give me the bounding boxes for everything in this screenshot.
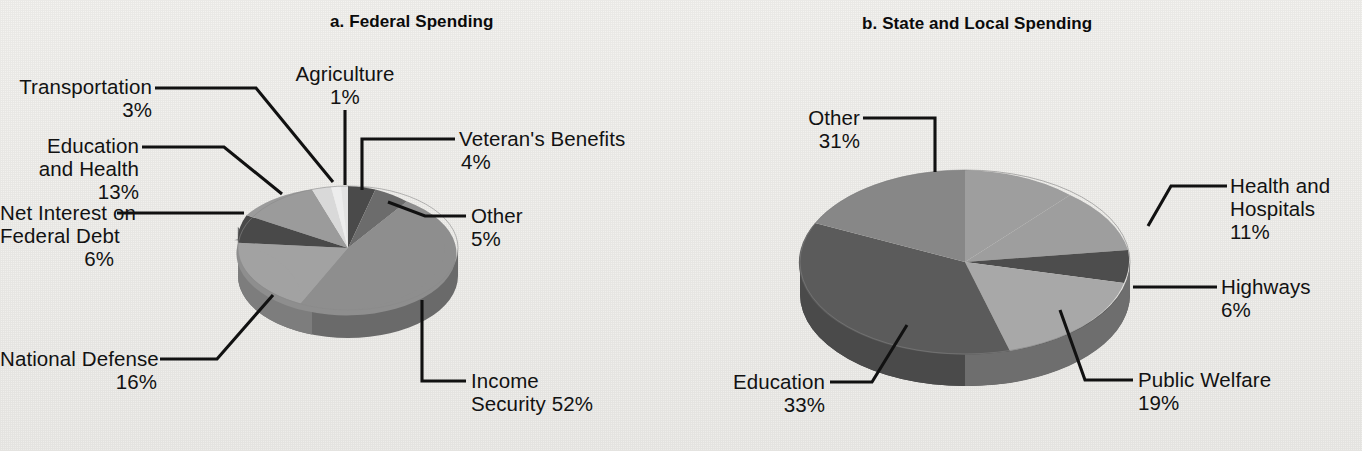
- label-agriculture: Agriculture 1%: [275, 62, 415, 108]
- label-other-state-local-line1: Other: [720, 106, 860, 129]
- label-net-interest-on-federal-debt: Net Interest on Federal Debt 6%: [0, 201, 114, 270]
- label-net-interest-value: 6%: [0, 247, 114, 270]
- label-net-interest-line1: Net Interest on: [0, 201, 114, 224]
- label-highways-line1: Highways: [1221, 275, 1351, 298]
- label-other-federal: Other 5%: [471, 204, 591, 250]
- label-veterans-benefits-line1: Veteran's Benefits: [459, 127, 679, 150]
- label-net-interest-line2: Federal Debt: [0, 224, 114, 247]
- label-public-welfare-value: 19%: [1138, 391, 1318, 414]
- label-veterans-benefits-value: 4%: [461, 150, 679, 173]
- label-national-defense-line1: National Defense: [0, 347, 157, 370]
- label-other-federal-line1: Other: [471, 204, 591, 227]
- label-income-security-line1: Income: [471, 369, 671, 392]
- label-transportation: Transportation 3%: [0, 75, 152, 121]
- label-other-state-local-value: 31%: [720, 129, 860, 152]
- label-national-defense: National Defense 16%: [0, 347, 157, 393]
- label-education-and-health-line1: Education: [0, 134, 139, 157]
- label-agriculture-line1: Agriculture: [275, 62, 415, 85]
- label-other-federal-value: 5%: [471, 227, 591, 250]
- label-health-and-hospitals-line2: Hospitals: [1230, 197, 1360, 220]
- label-income-security-value: Security 52%: [471, 392, 671, 415]
- label-education-and-health-value: 13%: [0, 180, 139, 203]
- label-other-state-local: Other 31%: [720, 106, 860, 152]
- label-national-defense-value: 16%: [0, 370, 157, 393]
- label-health-and-hospitals-line1: Health and: [1230, 174, 1360, 197]
- pie-b-graphic: [799, 170, 1130, 386]
- label-education-and-health: Education and Health 13%: [0, 134, 139, 203]
- label-education-state-local-value: 33%: [660, 393, 825, 416]
- figure-canvas: a. Federal Spending b. State and Local S…: [0, 0, 1362, 451]
- label-public-welfare-line1: Public Welfare: [1138, 368, 1318, 391]
- label-income-security: Income Security 52%: [471, 369, 671, 415]
- label-transportation-line1: Transportation: [0, 75, 152, 98]
- label-agriculture-value: 1%: [275, 85, 415, 108]
- label-highways-value: 6%: [1221, 298, 1351, 321]
- label-veterans-benefits: Veteran's Benefits 4%: [459, 127, 679, 173]
- label-health-and-hospitals: Health and Hospitals 11%: [1230, 174, 1360, 243]
- label-public-welfare: Public Welfare 19%: [1138, 368, 1318, 414]
- label-education-state-local: Education 33%: [660, 370, 825, 416]
- label-transportation-value: 3%: [0, 98, 152, 121]
- label-education-state-local-line1: Education: [660, 370, 825, 393]
- label-education-and-health-line2: and Health: [0, 157, 139, 180]
- label-health-and-hospitals-value: 11%: [1230, 220, 1360, 243]
- label-highways: Highways 6%: [1221, 275, 1351, 321]
